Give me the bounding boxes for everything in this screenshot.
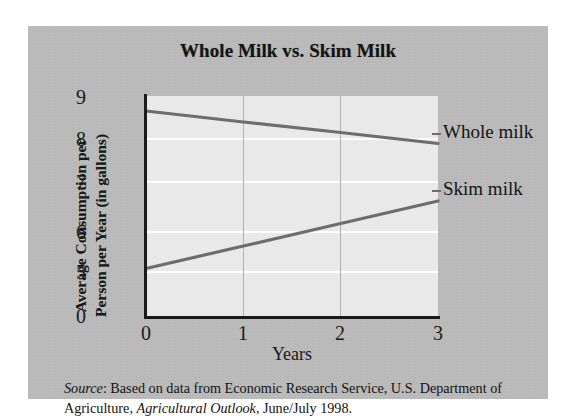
y-tick-0: 0 xyxy=(58,305,86,328)
source-line2-post: , June/July 1998. xyxy=(256,400,352,416)
series-label-skim-milk: Skim milk xyxy=(432,178,523,200)
source-line1-rest: : Based on data from Economic Research S… xyxy=(103,380,416,396)
x-tick-1: 1 xyxy=(228,322,258,345)
y-tick-8: 8 xyxy=(58,128,86,151)
x-tick-2: 2 xyxy=(325,322,355,345)
figure-page: Whole Milk vs. Skim Milk Average Consump… xyxy=(0,0,571,420)
skim-milk-label-text: Skim milk xyxy=(443,178,523,199)
x-axis-label: Years xyxy=(146,344,438,365)
y-tick-7: 7 xyxy=(58,171,86,194)
source-publication: Agricultural Outlook xyxy=(137,400,256,416)
series-label-whole-milk: Whole milk xyxy=(432,121,533,143)
source-prefix: Source xyxy=(64,380,103,396)
whole-milk-label-text: Whole milk xyxy=(443,121,533,142)
x-axis-line xyxy=(144,316,440,319)
whole-milk-swatch-icon xyxy=(432,133,441,135)
series-line-whole-milk xyxy=(146,111,438,144)
x-tick-0: 0 xyxy=(131,322,161,345)
chart-title: Whole Milk vs. Skim Milk xyxy=(28,40,548,62)
source-note: Source: Based on data from Economic Rese… xyxy=(64,379,534,418)
plot-area xyxy=(146,96,438,316)
y-axis-label-line2: Person per Year (in gallons) xyxy=(91,101,111,351)
y-tick-5: 5 xyxy=(58,261,86,284)
x-tick-3: 3 xyxy=(423,322,453,345)
y-axis-line xyxy=(144,94,147,318)
series-line-skim-milk xyxy=(146,201,438,269)
figure-card: Whole Milk vs. Skim Milk Average Consump… xyxy=(28,26,548,399)
series-lines xyxy=(146,96,438,316)
y-tick-9: 9 xyxy=(58,86,86,109)
skim-milk-swatch-icon xyxy=(432,190,441,192)
y-tick-6: 6 xyxy=(58,221,86,244)
